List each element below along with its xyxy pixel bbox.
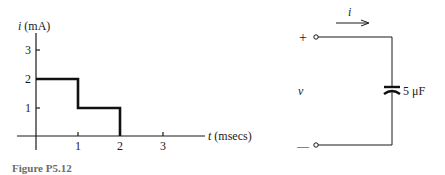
- capacitor-value: 5 μF: [403, 84, 425, 98]
- x-tick-label: 2: [117, 139, 123, 153]
- current-label: i: [348, 5, 351, 19]
- negative-terminal: [314, 143, 318, 147]
- current-arrow-icon: [336, 20, 369, 26]
- current-graph: i(mA) 3 2 1 1 2 3 t(msecs): [17, 19, 252, 153]
- figure-canvas: i(mA) 3 2 1 1 2 3 t(msecs) Figure P5.12 …: [0, 0, 445, 175]
- positive-terminal: [314, 35, 318, 39]
- plus-label: +: [299, 30, 307, 45]
- capacitor-circuit: i + 5 μF v —: [296, 5, 425, 153]
- current-waveform: [36, 79, 120, 136]
- y-axis-label: i(mA): [18, 19, 50, 33]
- x-tick-label: 3: [160, 139, 166, 153]
- y-tick-label: 3: [25, 43, 31, 57]
- figure-caption: Figure P5.12: [12, 162, 72, 174]
- y-tick-label: 2: [25, 72, 31, 86]
- x-axis-label: t(msecs): [208, 129, 252, 143]
- y-tick-label: 1: [25, 101, 31, 115]
- minus-label: —: [296, 139, 310, 153]
- x-tick-label: 1: [75, 139, 81, 153]
- voltage-label: v: [298, 84, 304, 98]
